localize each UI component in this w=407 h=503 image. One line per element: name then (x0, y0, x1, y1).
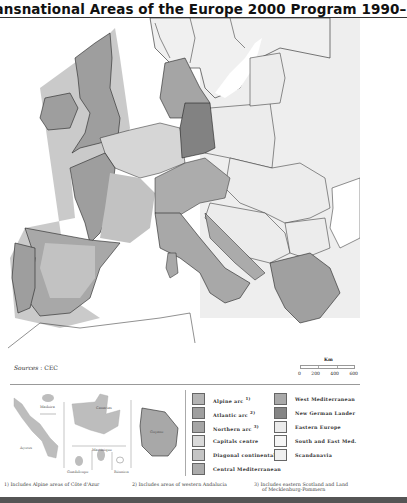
legend-divider (185, 390, 186, 476)
inset-label-guyane: Guyane (150, 430, 163, 434)
new-german-lander (180, 103, 215, 158)
scale-tick: 600 (349, 371, 358, 376)
inset-label-madeira: Madeira (40, 405, 55, 409)
footnote-1: 1) Includes Alpine areas of Côte d'Azur (4, 482, 99, 487)
europe-map (0, 18, 360, 358)
legend-item-eastern-europe: Eastern Europe (274, 421, 394, 435)
footnote-ref: 2) (250, 410, 255, 415)
canarias-inset (72, 394, 120, 434)
footnote-3-line-1: 3) Includes eastern Scotland and Land (254, 482, 348, 487)
overseas-insets: Madeira Canarias Açores Guyane Martiniqu… (0, 386, 185, 474)
legend-swatch (192, 407, 205, 419)
legend-swatch (192, 393, 205, 405)
legend-item-central-mediterranean: Central Mediterranean (192, 463, 312, 477)
legend-swatch (274, 393, 287, 405)
footnote-3: 3) Includes eastern Scotland and Land of… (254, 482, 348, 493)
legend-label: Alpine arc (213, 398, 244, 404)
inset-label-guadeloupe: Guadeloupe (67, 470, 88, 474)
scale-bar-graphic (300, 365, 355, 369)
scale-unit: Km (324, 357, 333, 362)
legend-item-south-east-med: South and East Med. (274, 435, 394, 449)
inset-label-martinique: Martinique (92, 448, 112, 452)
legend-label: Scandanavia (295, 452, 332, 458)
section-divider (10, 384, 360, 385)
legend-swatch (192, 463, 205, 475)
inset-label-acores: Açores (20, 446, 32, 450)
sources-value: CEC (44, 364, 58, 371)
scale-bar: Km 0 200 400 600 (298, 357, 358, 379)
legend-swatch (274, 421, 287, 433)
legend-item-west-mediterranean: West Mediterranean (274, 393, 394, 407)
scale-tick: 400 (330, 371, 339, 376)
footnote-3-line-2: of Mecklenburg-Pommern (254, 487, 325, 492)
legend-swatch (274, 435, 287, 447)
legend-swatch (192, 435, 205, 447)
sources-label: Sources (14, 364, 38, 371)
legend-label: Central Mediterranean (213, 466, 281, 472)
guadeloupe-inset (75, 456, 83, 466)
madeira-inset (42, 394, 54, 402)
legend-label: Eastern Europe (295, 424, 341, 430)
legend-swatch (274, 449, 287, 461)
legend-swatch (192, 449, 205, 461)
footnote-2: 2) Includes areas of western Andalucia (132, 482, 227, 487)
scale-ticks: 0 200 400 600 (298, 371, 358, 376)
legend-item-scandinavia: Scandanavia (274, 449, 394, 463)
bottom-border (0, 497, 407, 503)
scale-tick: 200 (311, 371, 320, 376)
legend-label: New German Lander (295, 410, 355, 416)
footnotes: 1) Includes Alpine areas of Côte d'Azur … (0, 482, 407, 496)
map-title: Transnational Areas of the Europe 2000 P… (0, 1, 407, 17)
legend-swatch (192, 421, 205, 433)
legend-label: West Mediterranean (295, 396, 355, 402)
black-sea (330, 178, 360, 248)
legend-label: Atlantic arc (213, 412, 248, 418)
legend-swatch (274, 407, 287, 419)
legend-label: Diagonal continental (213, 452, 276, 458)
legend-label: South and East Med. (295, 438, 357, 444)
inset-label-canarias: Canarias (96, 406, 112, 410)
footnote-ref: 1) (245, 396, 250, 401)
scale-tick: 0 (298, 371, 301, 376)
legend-label: Capitals centre (213, 438, 258, 444)
inset-label-reunion: Réunion (114, 470, 129, 474)
footnote-ref: 3) (254, 424, 259, 429)
legend-label: Northern arc (213, 426, 252, 432)
reunion-inset (117, 457, 124, 463)
legend-item-new-german-lander: New German Lander (274, 407, 394, 421)
sources-note: Sources : CEC (14, 364, 58, 371)
